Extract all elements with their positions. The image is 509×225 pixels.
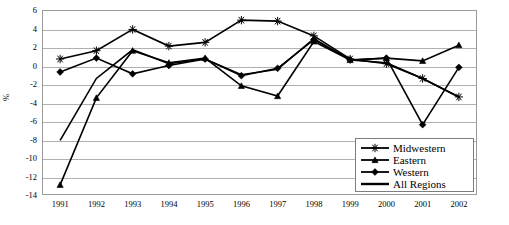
x-tick-label: 1997 <box>269 199 286 209</box>
marker-midwestern <box>92 47 100 55</box>
legend-item-midwestern[interactable]: Midwestern <box>360 142 469 154</box>
marker-midwestern <box>201 38 209 46</box>
legend-item-eastern[interactable]: Eastern <box>360 154 469 166</box>
x-tick-label: 1998 <box>305 199 322 209</box>
marker-western <box>202 56 209 63</box>
marker-midwestern <box>273 17 281 25</box>
x-tick-label: 1992 <box>88 199 105 209</box>
legend-swatch-star-asterisk-icon <box>360 142 390 154</box>
legend-item-western[interactable]: Western <box>360 166 469 178</box>
marker-western <box>93 55 100 62</box>
x-tick-label: 1994 <box>160 199 177 209</box>
series-line-all-regions <box>60 39 459 141</box>
legend-marker <box>372 169 379 176</box>
x-axis: 1991199219931994199519961997199819992000… <box>0 199 509 215</box>
marker-western <box>129 70 136 77</box>
marker-midwestern <box>455 93 463 101</box>
legend-label: Eastern <box>390 154 426 166</box>
legend-label: Midwestern <box>390 142 446 154</box>
legend-swatch-diamond-icon <box>360 166 390 178</box>
legend-marker <box>371 144 379 152</box>
legend-swatch-triangle-icon <box>360 154 390 166</box>
legend-swatch-line-icon <box>360 178 390 190</box>
marker-eastern <box>456 42 462 48</box>
marker-midwestern <box>418 74 426 82</box>
marker-midwestern <box>128 25 136 33</box>
marker-eastern <box>57 182 63 188</box>
x-tick-label: 1996 <box>233 199 250 209</box>
marker-midwestern <box>165 42 173 50</box>
x-tick-label: 1999 <box>342 199 359 209</box>
x-tick-label: 2001 <box>414 199 431 209</box>
marker-western <box>57 69 64 76</box>
series-line-western <box>60 40 459 125</box>
legend-item-all-regions[interactable]: All Regions <box>360 178 469 190</box>
x-tick-label: 2000 <box>378 199 395 209</box>
chart-legend: MidwesternEasternWesternAll Regions <box>355 138 474 192</box>
marker-midwestern <box>237 16 245 24</box>
x-tick-label: 1991 <box>52 199 69 209</box>
x-tick-label: 1993 <box>124 199 141 209</box>
x-tick-label: 2002 <box>450 199 467 209</box>
x-tick-label: 1995 <box>197 199 214 209</box>
legend-label: Western <box>390 166 429 178</box>
marker-midwestern <box>56 55 64 63</box>
line-chart-figure: 6420-2-4-6-8-10-12-14 % 1991199219931994… <box>0 0 509 225</box>
legend-label: All Regions <box>390 178 446 190</box>
